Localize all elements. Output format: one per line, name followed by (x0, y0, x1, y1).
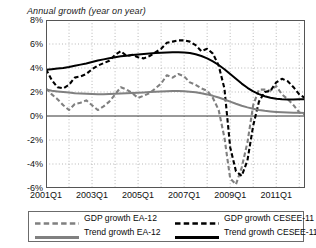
legend-label: Trend growth CESEE-11 (224, 228, 316, 237)
y-tick-label: -4% (0, 160, 43, 169)
y-tick-label: 6% (0, 40, 43, 49)
plot-area (46, 20, 305, 188)
legend-swatch-solid-icon (175, 228, 219, 237)
legend-row: GDP growth EA-12GDP growth CESEE-11 (29, 214, 303, 228)
legend-label: GDP growth EA-12 (84, 214, 157, 223)
legend-swatch-solid-icon (35, 228, 79, 237)
legend-label: Trend growth EA-12 (84, 228, 161, 237)
chart-figure: Annual growth (year on year) 8%6%4%2%0%-… (0, 0, 316, 248)
y-tick-label: 0% (0, 112, 43, 121)
legend-label: GDP growth CESEE-11 (224, 214, 314, 223)
chart-legend: GDP growth EA-12GDP growth CESEE-11Trend… (28, 211, 304, 242)
y-tick-label: 4% (0, 64, 43, 73)
plot-border (46, 20, 305, 188)
legend-item[interactable]: Trend growth CESEE-11 (175, 228, 316, 237)
legend-item[interactable]: GDP growth CESEE-11 (175, 214, 314, 223)
legend-swatch-dashed-icon (35, 214, 79, 223)
y-tick-label: 8% (0, 16, 43, 25)
legend-row: Trend growth EA-12Trend growth CESEE-11 (29, 228, 303, 242)
legend-swatch-dashed-icon (175, 214, 219, 223)
y-tick-label: -2% (0, 136, 43, 145)
legend-item[interactable]: Trend growth EA-12 (35, 228, 161, 237)
chart-subtitle: Annual growth (year on year) (27, 6, 146, 16)
y-tick-label: 2% (0, 88, 43, 97)
legend-item[interactable]: GDP growth EA-12 (35, 214, 157, 223)
x-tick-label: 2011Q1 (246, 191, 306, 200)
